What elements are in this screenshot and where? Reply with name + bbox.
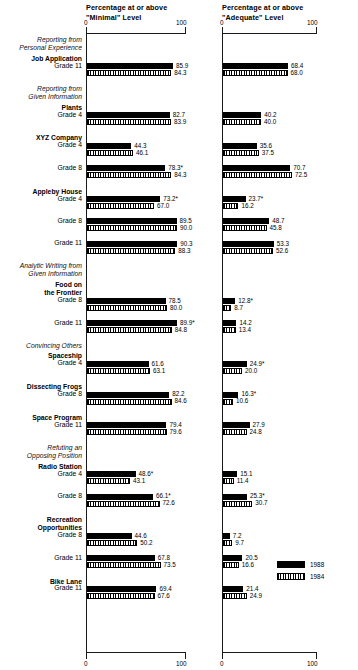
axis-tick-label-minimal-min: 0 bbox=[84, 660, 88, 667]
bar-1988 bbox=[87, 112, 170, 118]
grade-label: Grade 4 bbox=[0, 359, 82, 367]
bar-value-label-1984: 84.6 bbox=[175, 398, 187, 405]
bar-1988 bbox=[87, 320, 177, 326]
bar-value-label-1984: 9.7 bbox=[235, 540, 244, 547]
bar-value-label-1984: 24.8 bbox=[250, 429, 262, 436]
bar-1984 bbox=[87, 540, 137, 546]
bar-1988 bbox=[87, 143, 131, 149]
plot-panel-adequate: 68.468.040.240.035.637.570.772.523.7*16.… bbox=[222, 34, 317, 652]
bar-1984 bbox=[87, 327, 172, 333]
bar-1984 bbox=[87, 248, 175, 254]
grade-label: Grade 8 bbox=[0, 390, 82, 398]
grade-label: Grade 11 bbox=[0, 584, 82, 592]
bar-1988 bbox=[87, 392, 169, 398]
bar-1988 bbox=[87, 533, 132, 539]
axis-tick-label-adequate-max: 100 bbox=[307, 660, 318, 667]
bar-value-label-1984: 63.1 bbox=[153, 368, 165, 375]
bar-1984 bbox=[223, 305, 231, 311]
bar-value-label-1984: 80.0 bbox=[170, 305, 182, 312]
bar-1984 bbox=[87, 478, 130, 484]
bar-1984 bbox=[223, 150, 259, 156]
legend-swatch-1988 bbox=[277, 561, 305, 568]
bar-1988 bbox=[87, 361, 149, 367]
axis-tick-minimal-max bbox=[185, 653, 186, 659]
bar-1988 bbox=[223, 422, 250, 428]
grade-label: Grade 4 bbox=[0, 470, 82, 478]
bar-value-label-1984: 11.4 bbox=[237, 478, 249, 485]
axis-tick-adequate-min bbox=[222, 27, 223, 33]
axis-line-minimal-top bbox=[86, 33, 186, 34]
bar-1984 bbox=[223, 368, 242, 374]
bar-1984 bbox=[223, 593, 247, 599]
bar-1984 bbox=[87, 305, 167, 311]
grade-label: Grade 8 bbox=[0, 492, 82, 500]
bar-value-label-1984: 52.6 bbox=[276, 248, 288, 255]
group-heading: Analytic Writing from Given Information bbox=[0, 262, 82, 278]
task-heading: Recreation Opportunities bbox=[0, 516, 82, 532]
bar-value-label-1984: 37.5 bbox=[262, 150, 274, 157]
bar-1984 bbox=[223, 225, 267, 231]
bar-1984 bbox=[87, 501, 160, 507]
bar-value-label-1984: 88.3 bbox=[178, 248, 190, 255]
bar-1988 bbox=[87, 196, 160, 202]
bar-1984 bbox=[223, 478, 234, 484]
grade-label: Grade 4 bbox=[0, 111, 82, 119]
bar-1984 bbox=[87, 119, 171, 125]
bar-1984 bbox=[223, 203, 238, 209]
bar-1984 bbox=[223, 562, 239, 568]
bar-1988 bbox=[87, 241, 177, 247]
axis-tick-label-minimal-min: 0 bbox=[84, 19, 88, 26]
axis-tick-label-minimal-max: 100 bbox=[176, 660, 187, 667]
bar-1988 bbox=[223, 320, 236, 326]
bar-1984 bbox=[87, 150, 133, 156]
group-heading: Reporting from Given Information bbox=[0, 85, 82, 101]
plot-panel-minimal: 85.984.382.783.944.346.178.3*84.373.2*67… bbox=[86, 34, 186, 652]
bar-value-label-1984: 13.4 bbox=[239, 327, 251, 334]
bar-1988 bbox=[223, 218, 269, 224]
grade-label: Grade 11 bbox=[0, 239, 82, 247]
bar-1984 bbox=[223, 172, 292, 178]
bar-value-label-1984: 67.0 bbox=[157, 203, 169, 210]
axis-line-adequate-bottom bbox=[222, 652, 317, 653]
bar-1988 bbox=[223, 494, 247, 500]
chart-root: Percentage at or above "Minimal" Level P… bbox=[0, 0, 358, 670]
grade-label: Grade 4 bbox=[0, 195, 82, 203]
bar-value-label-1984: 40.0 bbox=[264, 119, 276, 126]
bar-value-label-1984: 79.6 bbox=[170, 429, 182, 436]
bar-value-label-1984: 84.3 bbox=[174, 70, 186, 77]
bar-1988 bbox=[87, 471, 136, 477]
axis-tick-minimal-min bbox=[86, 653, 87, 659]
bar-value-label-1984: 16.2 bbox=[241, 203, 253, 210]
bar-value-label-1984: 16.6 bbox=[242, 562, 254, 569]
bar-1984 bbox=[223, 248, 273, 254]
bar-1984 bbox=[223, 327, 236, 333]
bar-value-label-1984: 8.7 bbox=[234, 305, 243, 312]
bar-1984 bbox=[87, 172, 171, 178]
legend-label-1984: 1984 bbox=[310, 573, 324, 581]
bar-value-label-1984: 45.8 bbox=[270, 225, 282, 232]
bar-1988 bbox=[87, 63, 173, 69]
bar-1984 bbox=[87, 429, 167, 435]
axis-line-adequate-top bbox=[222, 33, 317, 34]
bar-value-label-1984: 73.5 bbox=[164, 562, 176, 569]
bar-1988 bbox=[223, 241, 274, 247]
bar-1984 bbox=[87, 562, 161, 568]
task-heading: Food on the Frontier bbox=[0, 281, 82, 297]
bar-1984 bbox=[223, 429, 247, 435]
grade-label: Grade 8 bbox=[0, 164, 82, 172]
axis-tick-label-adequate-min: 0 bbox=[220, 660, 224, 667]
bar-value-label-1984: 46.1 bbox=[136, 150, 148, 157]
grade-label: Grade 8 bbox=[0, 217, 82, 225]
bar-1988 bbox=[223, 586, 243, 592]
axis-tick-label-minimal-max: 100 bbox=[176, 19, 187, 26]
bar-1984 bbox=[87, 70, 171, 76]
axis-tick-adequate-min bbox=[222, 653, 223, 659]
bar-1988 bbox=[223, 298, 235, 304]
bar-1984 bbox=[87, 368, 150, 374]
bar-value-label-1984: 50.2 bbox=[140, 540, 152, 547]
bar-value-label-1984: 20.0 bbox=[245, 368, 257, 375]
group-heading: Refuting an Opposing Position bbox=[0, 444, 82, 460]
bar-1988 bbox=[223, 533, 230, 539]
bar-value-label-1984: 72.5 bbox=[295, 172, 307, 179]
grade-label: Grade 8 bbox=[0, 531, 82, 539]
